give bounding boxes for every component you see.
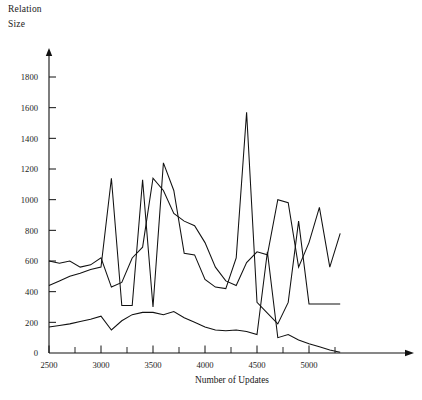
y-tick-label: 1400 <box>21 134 38 144</box>
x-axis: 250030003500400045005000 <box>40 346 414 371</box>
y-tick-label: 1800 <box>21 72 38 82</box>
y-tick-label: 200 <box>25 318 38 328</box>
line-series-c <box>49 252 340 352</box>
line-series-b <box>49 112 340 324</box>
data-series-group <box>49 112 340 352</box>
y-tick-label: 1200 <box>21 164 38 174</box>
y-tick-label: 400 <box>25 287 38 297</box>
relation-size-line-chart: Relation Size 02004006008001000120014001… <box>0 0 422 400</box>
x-tick-label: 4000 <box>196 360 213 370</box>
x-tick-label: 3000 <box>92 360 109 370</box>
x-axis-title: Number of Updates <box>195 375 269 385</box>
line-series-a <box>49 178 340 287</box>
y-tick-label: 600 <box>25 256 38 266</box>
y-tick-label: 1000 <box>21 195 38 205</box>
x-tick-label: 2500 <box>40 360 57 370</box>
x-tick-label: 5000 <box>300 360 317 370</box>
x-tick-label: 4500 <box>248 360 265 370</box>
y-tick-label: 0 <box>34 348 38 358</box>
plot-area: 020040060080010001200140016001800 250030… <box>0 0 422 400</box>
x-tick-label: 3500 <box>144 360 161 370</box>
y-tick-label: 800 <box>25 226 38 236</box>
y-axis: 020040060080010001200140016001800 <box>21 48 56 358</box>
y-tick-label: 1600 <box>21 103 38 113</box>
